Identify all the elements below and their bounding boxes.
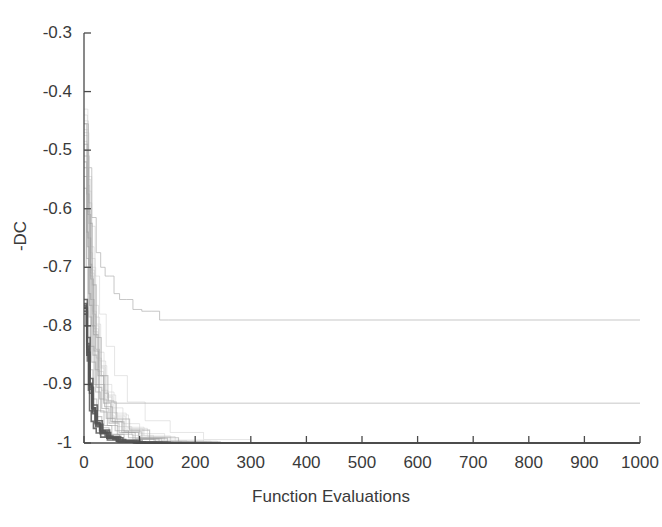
y-tick-label: -0.7: [0, 257, 72, 277]
y-tick-label: -1: [0, 433, 72, 453]
trace-line: [84, 168, 640, 443]
trace-line: [84, 136, 640, 444]
y-tick-label: -0.8: [0, 316, 72, 336]
x-tick-label: 700: [459, 453, 487, 473]
trace-line: [84, 130, 640, 443]
trace-line: [84, 314, 640, 443]
y-tick-label: -0.6: [0, 199, 72, 219]
trace-line: [84, 304, 640, 443]
trace-line: [84, 124, 640, 443]
trace-line: [84, 124, 640, 320]
trace-line: [84, 115, 640, 443]
trace-line: [84, 141, 640, 443]
y-tick-label: -0.5: [0, 140, 72, 160]
y-tick-label: -0.9: [0, 374, 72, 394]
x-tick-label: 600: [403, 453, 431, 473]
trace-line: [84, 308, 640, 443]
y-axis-title: -DC: [11, 221, 31, 251]
trace-line: [84, 156, 640, 443]
trace-line: [84, 109, 640, 443]
trace-line: [84, 188, 640, 443]
trace-line: [84, 300, 640, 444]
trace-line: [84, 144, 640, 443]
x-tick-label: 1000: [621, 453, 659, 473]
x-tick-label: 0: [79, 453, 88, 473]
axis-group: [84, 33, 640, 443]
plot-canvas: [0, 0, 662, 527]
x-tick-label: 800: [515, 453, 543, 473]
x-tick-label: 100: [125, 453, 153, 473]
trace-line: [84, 162, 640, 443]
trace-line: [84, 133, 640, 443]
y-tick-label: -0.3: [0, 23, 72, 43]
trace-line: [84, 311, 640, 443]
x-tick-label: 900: [570, 453, 598, 473]
x-tick-label: 400: [292, 453, 320, 473]
trace-line: [84, 150, 640, 403]
trace-line: [84, 305, 640, 443]
trace-line: [84, 308, 640, 443]
x-tick-label: 500: [348, 453, 376, 473]
trace-line: [84, 121, 640, 443]
y-tick-label: -0.4: [0, 82, 72, 102]
x-axis-title: Function Evaluations: [0, 487, 662, 507]
trace-lines-group: [84, 109, 640, 443]
x-tick-label: 300: [237, 453, 265, 473]
trace-line: [84, 307, 640, 443]
chart-figure: -0.3-0.4-0.5-0.6-0.7-0.8-0.9-1 010020030…: [0, 0, 662, 527]
trace-line: [84, 209, 640, 443]
x-tick-label: 200: [181, 453, 209, 473]
trace-line: [84, 150, 640, 443]
